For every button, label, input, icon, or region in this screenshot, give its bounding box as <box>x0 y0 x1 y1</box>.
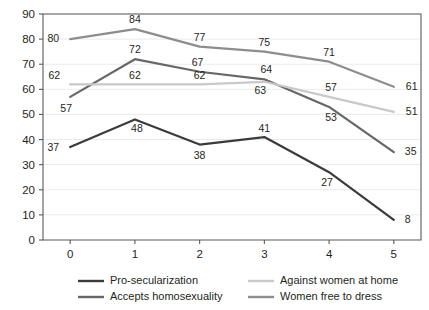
x-axis-tick-labels: 012345 <box>67 248 397 260</box>
data-point-label: 62 <box>48 69 60 81</box>
series-line <box>70 29 394 87</box>
series-line <box>70 82 394 112</box>
data-point-label: 27 <box>321 176 333 188</box>
data-point-label: 53 <box>325 111 337 123</box>
legend-label: Accepts homosexuality <box>110 290 223 302</box>
chart-canvas: 0102030405060708090 012345 3748384127857… <box>0 0 429 310</box>
data-point-label: 84 <box>129 13 141 25</box>
gridlines <box>43 14 421 215</box>
data-point-label: 8 <box>405 213 411 225</box>
y-tick-label: 0 <box>29 234 35 246</box>
x-tick-label: 2 <box>196 248 202 260</box>
data-point-label: 67 <box>192 56 204 68</box>
data-point-label: 48 <box>131 122 143 134</box>
data-point-label: 77 <box>194 31 206 43</box>
data-point-label: 62 <box>194 69 206 81</box>
x-tick-label: 4 <box>326 248 333 260</box>
legend-label: Women free to dress <box>280 290 382 302</box>
plot-frame <box>43 14 421 240</box>
data-point-label: 71 <box>323 46 335 58</box>
legend-item[interactable]: Pro-secularization <box>78 274 198 286</box>
x-tick-label: 0 <box>67 248 73 260</box>
data-point-label: 57 <box>60 102 72 114</box>
series-line <box>70 119 394 219</box>
y-tick-label: 20 <box>22 184 35 196</box>
y-tick-label: 50 <box>22 108 35 120</box>
data-point-label: 51 <box>406 105 418 117</box>
y-tick-label: 80 <box>22 33 35 45</box>
data-point-label: 64 <box>261 63 273 75</box>
legend-item[interactable]: Women free to dress <box>248 290 382 302</box>
legend-item[interactable]: Accepts homosexuality <box>78 290 223 302</box>
y-tick-label: 30 <box>22 159 35 171</box>
data-point-label: 62 <box>129 69 141 81</box>
data-series <box>70 29 394 220</box>
data-point-label: 37 <box>47 141 59 153</box>
legend-label: Against women at home <box>280 274 398 286</box>
x-tick-label: 5 <box>391 248 397 260</box>
data-point-label: 80 <box>47 32 59 44</box>
x-tick-label: 1 <box>132 248 138 260</box>
y-tick-label: 10 <box>22 209 35 221</box>
y-tick-label: 90 <box>22 8 35 20</box>
data-point-labels: 3748384127857726764533562626263575180847… <box>47 13 417 225</box>
legend: Pro-secularizationAgainst women at homeA… <box>78 274 398 302</box>
data-point-label: 63 <box>255 84 267 96</box>
legend-label: Pro-secularization <box>110 274 198 286</box>
y-tick-label: 70 <box>22 58 35 70</box>
data-point-label: 35 <box>405 145 417 157</box>
series-line <box>70 59 394 152</box>
y-tick-label: 40 <box>22 134 35 146</box>
x-tick-label: 3 <box>261 248 267 260</box>
y-tick-label: 60 <box>22 83 35 95</box>
data-point-label: 57 <box>325 81 337 93</box>
y-axis-tick-labels: 0102030405060708090 <box>22 8 35 246</box>
line-chart: 0102030405060708090 012345 3748384127857… <box>0 0 429 310</box>
data-point-label: 61 <box>406 80 418 92</box>
legend-item[interactable]: Against women at home <box>248 274 398 286</box>
data-point-label: 38 <box>194 149 206 161</box>
data-point-label: 75 <box>259 36 271 48</box>
data-point-label: 41 <box>259 122 271 134</box>
data-point-label: 72 <box>129 43 141 55</box>
